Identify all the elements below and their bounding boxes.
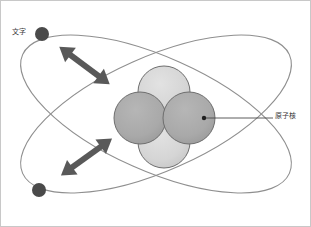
electron-label: 文字 xyxy=(12,28,26,37)
electron-lower xyxy=(32,183,46,197)
electron-upper xyxy=(35,27,49,41)
nucleon-neutron-left xyxy=(114,92,166,144)
nucleus-group xyxy=(114,66,215,168)
nucleus-leader-dot xyxy=(202,116,206,120)
atom-diagram-figure: 文字 原子核 xyxy=(0,0,311,227)
motion-arrow-upper xyxy=(54,39,115,91)
arrow-group xyxy=(54,39,117,182)
motion-arrow-lower xyxy=(56,131,118,182)
nucleus-label: 原子核 xyxy=(275,112,296,121)
atom-diagram-canvas xyxy=(1,1,311,227)
electron-group xyxy=(32,27,49,197)
